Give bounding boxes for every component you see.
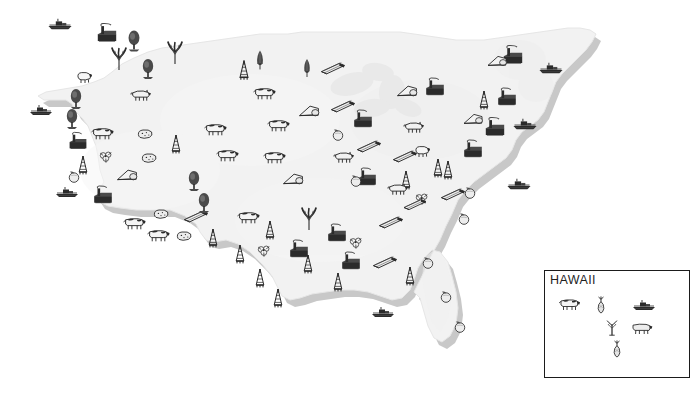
wheat-sheaf-icon (299, 207, 319, 231)
factory-icon (94, 23, 119, 44)
cargo-ship-icon (511, 118, 538, 131)
tent-icon (395, 84, 418, 99)
cargo-ship-icon (505, 178, 532, 191)
citrus-icon (462, 186, 477, 199)
dairy-cattle-icon (265, 118, 290, 133)
wheat-sheaf-icon (109, 47, 129, 71)
tent-icon (297, 104, 320, 119)
dairy-cattle-icon (202, 122, 227, 137)
wheat-sheaf-icon (165, 41, 185, 65)
tent-icon (281, 172, 304, 187)
oil-derrick-icon (476, 90, 492, 110)
dairy-cattle-icon (214, 148, 239, 163)
cargo-ship-icon (370, 306, 396, 318)
cotton-icon (348, 236, 363, 249)
cotton-icon (98, 150, 113, 163)
oil-derrick-icon (205, 228, 221, 248)
hog-icon (331, 150, 354, 164)
oil-derrick-icon (262, 220, 278, 240)
conifer-tree-icon (140, 58, 156, 80)
oil-derrick-icon (330, 272, 346, 292)
citrus-icon (348, 174, 363, 187)
dairy-cattle-icon (261, 150, 286, 165)
lumber-icon (371, 256, 398, 271)
citrus-icon (456, 212, 471, 225)
factory-icon (91, 185, 115, 205)
cotton-icon (256, 244, 271, 257)
dairy-cattle-icon (235, 210, 260, 225)
dairy-cattle-icon (89, 126, 114, 141)
tent-icon (115, 168, 138, 183)
pineapple-icon (595, 296, 606, 315)
cargo-ship-icon (54, 186, 80, 198)
factory-icon (461, 139, 485, 159)
potato-icon (136, 128, 154, 140)
hog-icon (401, 120, 424, 134)
cargo-ship-icon (537, 62, 564, 75)
tent-icon (486, 54, 508, 68)
tent-icon (462, 112, 484, 126)
factory-icon (66, 132, 89, 151)
lumber-icon (377, 216, 404, 231)
conifer-tree-icon (68, 88, 84, 110)
hawaii-inset-box: HAWAII (544, 270, 690, 378)
lumber-icon (355, 140, 382, 155)
oil-derrick-icon (402, 266, 418, 286)
factory-icon (351, 109, 375, 129)
factory-icon (423, 77, 447, 97)
pineapple-icon (611, 340, 622, 359)
oil-derrick-icon (252, 268, 268, 288)
sheep-icon (412, 144, 432, 158)
hog-icon (385, 182, 408, 196)
oil-derrick-icon (168, 134, 184, 154)
hog-icon (128, 88, 151, 102)
factory-icon (339, 251, 363, 271)
citrus-icon (452, 320, 467, 333)
dairy-cattle-icon (251, 86, 276, 101)
oil-derrick-icon (236, 60, 253, 81)
corn-icon (302, 58, 312, 78)
conifer-tree-icon (186, 170, 202, 192)
lumber-icon (319, 62, 346, 77)
citrus-icon (66, 170, 81, 183)
oil-derrick-icon (440, 160, 456, 180)
potato-icon (152, 208, 170, 220)
factory-icon (482, 117, 507, 138)
cargo-ship-icon (631, 299, 657, 311)
citrus-icon (420, 256, 435, 269)
citrus-icon (438, 290, 453, 303)
dairy-cattle-icon (121, 216, 146, 231)
citrus-icon (330, 128, 345, 141)
beef-cattle-icon (629, 321, 653, 335)
factory-icon (325, 223, 349, 243)
sugarcane-icon (606, 320, 619, 336)
sheep-icon (74, 70, 94, 84)
lumber-icon (402, 198, 428, 212)
potato-icon (175, 230, 193, 242)
resource-map-figure: HAWAII (0, 0, 699, 401)
oil-derrick-icon (270, 288, 286, 308)
oil-derrick-icon (300, 254, 316, 274)
conifer-tree-icon (64, 108, 80, 130)
dairy-cattle-icon (557, 297, 581, 311)
dairy-cattle-icon (145, 228, 170, 243)
cargo-ship-icon (46, 18, 73, 31)
corn-icon (255, 50, 266, 71)
potato-icon (140, 152, 158, 164)
oil-derrick-icon (232, 244, 248, 264)
factory-icon (495, 87, 519, 107)
conifer-tree-icon (196, 192, 212, 214)
hawaii-inset-icons (545, 271, 689, 377)
cargo-ship-icon (28, 104, 54, 116)
